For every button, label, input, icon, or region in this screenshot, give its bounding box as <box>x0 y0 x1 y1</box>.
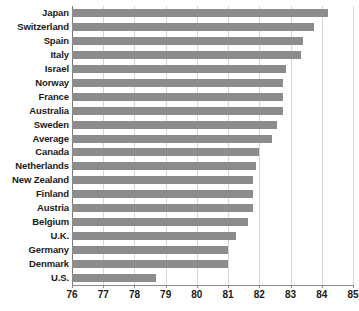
bar <box>72 246 228 254</box>
bar <box>72 162 256 170</box>
bar <box>72 190 253 198</box>
y-tick-label: Italy <box>0 50 69 60</box>
y-tick-label: Germany <box>0 245 69 255</box>
y-tick-label: Netherlands <box>0 161 69 171</box>
bar <box>72 176 253 184</box>
x-tick-label: 81 <box>223 288 234 302</box>
bar-row <box>72 201 353 215</box>
bar <box>72 232 236 240</box>
y-tick-label: Australia <box>0 106 69 116</box>
tick-mark-78 <box>134 285 135 288</box>
x-axis-tick-labels: 76777879808182838485 <box>0 288 353 308</box>
y-tick-label: Finland <box>0 189 69 199</box>
y-tick-label: Norway <box>0 78 69 88</box>
y-tick-label: New Zealand <box>0 175 69 185</box>
bar-row <box>72 187 353 201</box>
bar <box>72 23 314 31</box>
bar <box>72 107 283 115</box>
bar <box>72 260 228 268</box>
tick-mark-85 <box>353 285 354 288</box>
tick-mark-81 <box>228 285 229 288</box>
x-tick-label: 76 <box>66 288 77 302</box>
bar-row <box>72 146 353 160</box>
bar-row <box>72 34 353 48</box>
y-tick-label: Belgium <box>0 217 69 227</box>
bar <box>72 79 283 87</box>
y-tick-label: Average <box>0 134 69 144</box>
x-tick-label: 80 <box>191 288 202 302</box>
bar-row <box>72 6 353 20</box>
tick-mark-76 <box>72 285 73 288</box>
plot-area <box>72 6 353 285</box>
bar-row <box>72 76 353 90</box>
bar-row <box>72 159 353 173</box>
tick-mark-80 <box>197 285 198 288</box>
gridline-85 <box>353 6 354 285</box>
bar <box>72 148 259 156</box>
bar-row <box>72 243 353 257</box>
bar-row <box>72 132 353 146</box>
y-tick-label: U.K. <box>0 231 69 241</box>
tick-mark-77 <box>103 285 104 288</box>
bar-row <box>72 48 353 62</box>
bar-row <box>72 229 353 243</box>
bar-series <box>72 6 353 285</box>
bar <box>72 204 253 212</box>
y-tick-label: France <box>0 92 69 102</box>
y-tick-label: Japan <box>0 8 69 18</box>
tick-mark-82 <box>259 285 260 288</box>
bar-row <box>72 104 353 118</box>
x-tick-label: 84 <box>316 288 327 302</box>
tick-mark-79 <box>166 285 167 288</box>
x-tick-label: 83 <box>285 288 296 302</box>
x-axis-line <box>72 285 353 286</box>
y-tick-label: Israel <box>0 64 69 74</box>
x-tick-label: 79 <box>160 288 171 302</box>
bar <box>72 37 303 45</box>
bar-row <box>72 62 353 76</box>
bar-row <box>72 271 353 285</box>
y-tick-label: U.S. <box>0 273 69 283</box>
y-tick-label: Spain <box>0 36 69 46</box>
bar <box>72 65 286 73</box>
bar <box>72 218 248 226</box>
bar <box>72 121 277 129</box>
y-tick-label: Sweden <box>0 120 69 130</box>
x-tick-label: 85 <box>347 288 358 302</box>
y-tick-label: Denmark <box>0 259 69 269</box>
bar <box>72 93 283 101</box>
y-tick-label: Switzerland <box>0 22 69 32</box>
x-tick-label: 82 <box>254 288 265 302</box>
bar-row <box>72 173 353 187</box>
tick-mark-84 <box>322 285 323 288</box>
bar-row <box>72 90 353 104</box>
bar-row <box>72 257 353 271</box>
tick-mark-83 <box>291 285 292 288</box>
y-axis-category-labels: JapanSwitzerlandSpainItalyIsraelNorwayFr… <box>0 6 69 285</box>
bar <box>72 274 156 282</box>
bar-row <box>72 118 353 132</box>
x-tick-label: 77 <box>98 288 109 302</box>
y-tick-label: Austria <box>0 203 69 213</box>
bar <box>72 9 328 17</box>
bar-row <box>72 215 353 229</box>
bar <box>72 51 301 59</box>
y-tick-label: Canada <box>0 147 69 157</box>
x-tick-label: 78 <box>129 288 140 302</box>
bar <box>72 135 272 143</box>
bar-row <box>72 20 353 34</box>
